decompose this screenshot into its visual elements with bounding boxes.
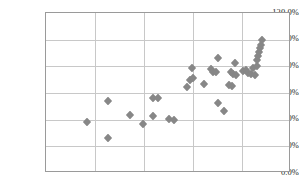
gridline-horizontal: [46, 93, 289, 94]
gridline-horizontal: [46, 40, 289, 41]
data-point: [126, 111, 134, 119]
data-point: [213, 99, 221, 107]
data-point: [220, 107, 228, 115]
data-point: [200, 79, 208, 87]
gridline-vertical: [193, 13, 194, 171]
scatter-chart: 0.0%20.0%40.0%60.0%80.0%100.0%120.0%: [0, 0, 299, 194]
plot-area: [45, 12, 290, 172]
data-point: [154, 93, 162, 101]
gridline-horizontal: [46, 146, 289, 147]
gridline-vertical: [95, 13, 96, 171]
gridline-vertical: [242, 13, 243, 171]
data-point: [213, 53, 221, 61]
gridline-vertical: [144, 13, 145, 171]
data-point: [250, 71, 258, 79]
data-point: [104, 133, 112, 141]
data-point: [104, 97, 112, 105]
data-point: [83, 117, 91, 125]
